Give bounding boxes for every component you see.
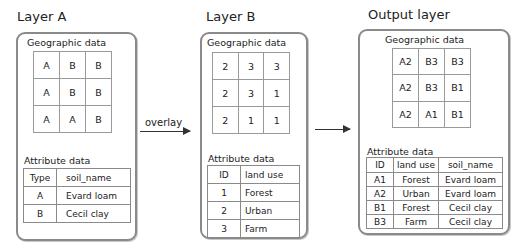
column-header: ID bbox=[208, 166, 241, 184]
table-row: 3 Farm bbox=[208, 220, 300, 238]
output-arrow-icon bbox=[315, 129, 350, 130]
grid-row: A2 B3 B3 bbox=[393, 49, 471, 75]
grid-cell: 3 bbox=[238, 80, 264, 107]
grid-cell: 2 bbox=[213, 107, 239, 134]
grid-row: A2 A1 B1 bbox=[393, 101, 471, 127]
grid-cell: A bbox=[34, 52, 60, 79]
grid-cell: B bbox=[85, 52, 111, 79]
grid-row: 2 3 3 bbox=[213, 53, 290, 80]
layer-a-attr-table: Type soil_name A Evard loam B Cecil clay bbox=[23, 168, 131, 223]
grid-cell: 3 bbox=[238, 53, 264, 80]
column-header: Type bbox=[24, 169, 57, 187]
table-header-row: Type soil_name bbox=[24, 169, 131, 187]
output-attr-table: ID land use soil_name A1 Forest Evard lo… bbox=[366, 157, 503, 229]
grid-cell: 3 bbox=[264, 53, 290, 80]
output-layer-title: Output layer bbox=[368, 7, 450, 22]
table-cell: Evard loam bbox=[439, 187, 503, 201]
column-header: ID bbox=[367, 158, 394, 173]
table-cell: Farm bbox=[394, 215, 439, 229]
table-cell: Forest bbox=[394, 201, 439, 215]
grid-cell: A2 bbox=[393, 49, 419, 75]
grid-cell: B bbox=[85, 79, 111, 106]
table-row: A1 Forest Evard loam bbox=[367, 173, 503, 187]
grid-cell: B3 bbox=[418, 75, 444, 101]
grid-cell: 1 bbox=[238, 107, 264, 134]
grid-cell: A2 bbox=[393, 101, 419, 127]
grid-cell: 2 bbox=[213, 53, 239, 80]
grid-cell: B3 bbox=[444, 49, 470, 75]
grid-cell: 1 bbox=[264, 80, 290, 107]
table-row: B Cecil clay bbox=[24, 205, 131, 223]
grid-row: A B B bbox=[34, 79, 112, 106]
grid-cell: A1 bbox=[418, 101, 444, 127]
table-cell: A bbox=[24, 187, 57, 205]
layer-b-geo-label: Geographic data bbox=[207, 37, 286, 48]
grid-cell: B3 bbox=[418, 49, 444, 75]
output-attr-label: Attribute data bbox=[367, 146, 433, 157]
table-cell: B3 bbox=[367, 215, 394, 229]
table-cell: Urban bbox=[394, 187, 439, 201]
overlay-label: overlay bbox=[145, 117, 182, 128]
table-cell: B bbox=[24, 205, 57, 223]
table-cell: A2 bbox=[367, 187, 394, 201]
table-cell: 3 bbox=[208, 220, 241, 238]
grid-cell: A bbox=[34, 106, 60, 133]
grid-cell: 1 bbox=[264, 107, 290, 134]
table-cell: Farm bbox=[241, 220, 300, 238]
table-row: 2 Urban bbox=[208, 202, 300, 220]
output-geo-label: Geographic data bbox=[385, 34, 464, 45]
table-cell: 1 bbox=[208, 184, 241, 202]
layer-b-attr-table: ID land use 1 Forest 2 Urban 3 Farm bbox=[207, 165, 300, 238]
grid-cell: B bbox=[59, 79, 85, 106]
table-cell: A1 bbox=[367, 173, 394, 187]
overlay-arrow-icon bbox=[140, 131, 190, 132]
layer-b-grid: 2 3 3 2 3 1 2 1 1 bbox=[212, 52, 290, 134]
table-cell: Cecil clay bbox=[57, 205, 131, 223]
table-row: 1 Forest bbox=[208, 184, 300, 202]
table-cell: Cecil clay bbox=[439, 201, 503, 215]
grid-cell: A bbox=[34, 79, 60, 106]
layer-b-attr-label: Attribute data bbox=[208, 153, 274, 164]
layer-a-title: Layer A bbox=[17, 9, 66, 24]
layer-a-grid: A B B A B B A A B bbox=[33, 51, 112, 133]
layer-a-geo-label: Geographic data bbox=[27, 37, 106, 48]
grid-cell: B bbox=[85, 106, 111, 133]
table-row: B3 Farm Cecil clay bbox=[367, 215, 503, 229]
output-grid: A2 B3 B3 A2 B3 B1 A2 A1 B1 bbox=[392, 48, 471, 128]
table-header-row: ID land use soil_name bbox=[367, 158, 503, 173]
grid-cell: 2 bbox=[213, 80, 239, 107]
table-cell: Evard loam bbox=[439, 173, 503, 187]
column-header: land use bbox=[394, 158, 439, 173]
grid-cell: A bbox=[59, 106, 85, 133]
grid-row: A2 B3 B1 bbox=[393, 75, 471, 101]
grid-row: A A B bbox=[34, 106, 112, 133]
table-cell: Urban bbox=[241, 202, 300, 220]
column-header: land use bbox=[241, 166, 300, 184]
table-cell: 2 bbox=[208, 202, 241, 220]
table-cell: Forest bbox=[394, 173, 439, 187]
grid-cell: B bbox=[59, 52, 85, 79]
table-row: A2 Urban Evard loam bbox=[367, 187, 503, 201]
table-cell: Forest bbox=[241, 184, 300, 202]
column-header: soil_name bbox=[57, 169, 131, 187]
grid-cell: B1 bbox=[444, 75, 470, 101]
table-row: A Evard loam bbox=[24, 187, 131, 205]
table-cell: Evard loam bbox=[57, 187, 131, 205]
layer-b-title: Layer B bbox=[206, 9, 255, 24]
table-row: B1 Forest Cecil clay bbox=[367, 201, 503, 215]
table-header-row: ID land use bbox=[208, 166, 300, 184]
table-cell: B1 bbox=[367, 201, 394, 215]
grid-row: 2 3 1 bbox=[213, 80, 290, 107]
table-cell: Cecil clay bbox=[439, 215, 503, 229]
layer-a-attr-label: Attribute data bbox=[24, 155, 90, 166]
grid-row: A B B bbox=[34, 52, 112, 79]
grid-cell: B1 bbox=[444, 101, 470, 127]
column-header: soil_name bbox=[439, 158, 503, 173]
grid-cell: A2 bbox=[393, 75, 419, 101]
grid-row: 2 1 1 bbox=[213, 107, 290, 134]
